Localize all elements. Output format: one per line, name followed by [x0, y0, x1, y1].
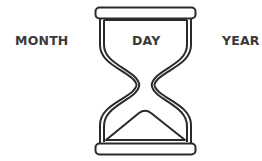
day-label: DAY: [132, 34, 161, 48]
hourglass-bottom-cap: [96, 144, 196, 155]
hourglass-sand: [106, 111, 185, 140]
month-label: MONTH: [15, 34, 69, 48]
hourglass-top-cap: [96, 8, 196, 19]
hourglass-icon: [0, 0, 262, 161]
year-label: YEAR: [222, 34, 260, 48]
